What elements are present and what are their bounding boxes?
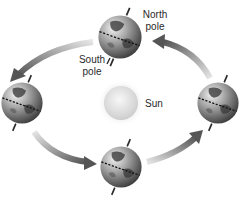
arrow-left-to-bottom — [34, 132, 97, 170]
south-pole-label-line2: pole — [75, 66, 109, 78]
orbit-diagram — [0, 0, 239, 199]
south-pole-label: South pole — [75, 54, 109, 78]
south-pole-label-line1: South — [75, 54, 109, 66]
sun — [97, 79, 145, 127]
sun-label: Sun — [143, 98, 165, 110]
earth-globe-bottom — [100, 139, 141, 195]
north-pole-label: North pole — [138, 9, 172, 33]
north-pole-label-line1: North — [138, 9, 172, 21]
earth-globe-right — [197, 75, 238, 131]
arrow-bottom-to-right — [147, 130, 203, 162]
earth-globe-left — [1, 75, 42, 131]
north-pole-label-line2: pole — [138, 21, 172, 33]
arrow-right-to-top — [152, 34, 210, 78]
